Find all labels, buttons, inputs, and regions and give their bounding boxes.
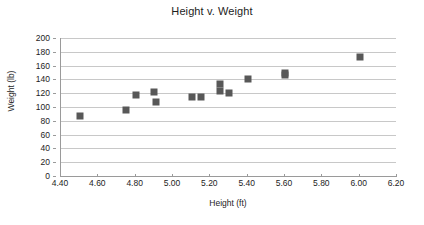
data-point [153,99,160,106]
data-point [151,88,158,95]
scatter-chart: Height v. Weight Weight (lb) 20018016014… [0,0,424,225]
y-tick-mark [53,93,56,94]
y-tick-mark [53,52,56,53]
y-tick-mark [53,66,56,67]
y-tick-label: 20 [41,157,50,167]
data-point [188,94,195,101]
x-tick-label: 6.00 [350,178,367,188]
data-point [356,53,363,60]
x-tick-mark [97,174,98,177]
x-tick-label: 5.20 [201,178,218,188]
y-tick-label: 180 [36,47,50,57]
y-tick-label: 60 [41,130,50,140]
y-tick-label: 120 [36,88,50,98]
x-tick-mark [396,174,397,177]
y-tick-label: 100 [36,102,50,112]
x-axis-tick-labels: 4.404.604.805.005.205.405.605.806.006.20 [60,178,396,192]
y-tick-mark [53,107,56,108]
y-tick-mark [53,176,56,177]
x-tick-mark [172,174,173,177]
data-point [123,106,130,113]
y-axis-tick-labels: 200180160140120100806040200 [0,38,56,176]
x-tick-label: 4.60 [89,178,106,188]
x-tick-mark [321,174,322,177]
plot-area [60,38,396,176]
x-tick-label: 4.80 [126,178,143,188]
data-point [76,112,83,119]
x-tick-label: 4.40 [52,178,69,188]
x-tick-label: 5.60 [276,178,293,188]
y-tick-mark [53,38,56,39]
data-point [226,90,233,97]
x-tick-mark [135,174,136,177]
y-tick-label: 140 [36,74,50,84]
y-tick-mark [53,148,56,149]
data-point [198,94,205,101]
chart-title: Height v. Weight [0,5,424,17]
y-tick-label: 160 [36,61,50,71]
data-point [282,71,289,78]
y-tick-mark [53,121,56,122]
y-tick-label: 80 [41,116,50,126]
x-tick-mark [247,174,248,177]
data-point [216,88,223,95]
x-tick-label: 6.20 [388,178,405,188]
data-point [244,75,251,82]
y-tick-mark [53,135,56,136]
y-tick-label: 0 [45,171,50,181]
x-tick-label: 5.40 [238,178,255,188]
y-tick-label: 200 [36,33,50,43]
y-tick-mark [53,79,56,80]
data-point [216,80,223,87]
x-tick-label: 5.80 [313,178,330,188]
gridline [61,176,396,177]
data-points-layer [61,38,396,176]
x-axis-title: Height (ft) [60,198,396,208]
x-tick-mark [209,174,210,177]
x-tick-label: 5.00 [164,178,181,188]
data-point [132,91,139,98]
x-tick-mark [60,174,61,177]
x-tick-mark [359,174,360,177]
y-tick-label: 40 [41,143,50,153]
x-tick-mark [284,174,285,177]
y-tick-mark [53,162,56,163]
